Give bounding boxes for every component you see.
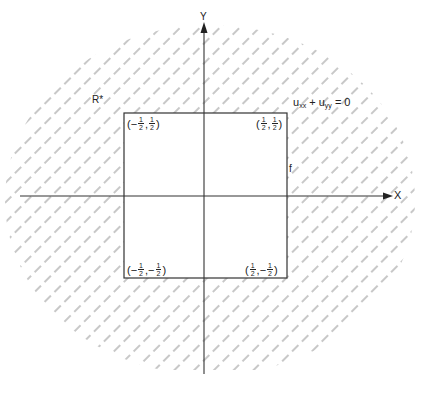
corner-label-bottom-right: (12,−12) <box>245 262 278 277</box>
diagram-canvas <box>0 0 423 395</box>
hatched-region <box>0 20 423 370</box>
region-label: R* <box>92 94 103 105</box>
corner-label-top-right: (12,12) <box>256 116 282 131</box>
equation-label: uxx + uyy = 0 <box>293 96 350 109</box>
corner-label-top-left: (−12,12) <box>127 116 160 131</box>
y-axis-label: Y <box>200 11 207 22</box>
corner-label-bottom-left: (−12,−12) <box>127 262 166 277</box>
x-axis-label: X <box>394 189 401 201</box>
boundary-label: f <box>289 163 292 174</box>
